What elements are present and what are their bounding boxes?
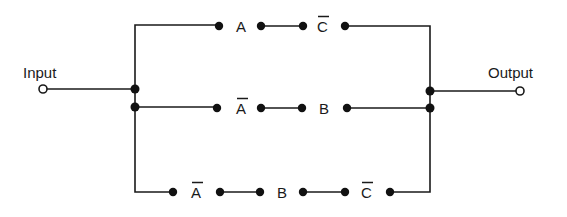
contact-dot [299,188,307,196]
contact-dot [169,188,177,196]
contact-dot [213,104,221,112]
branch-top: A C [215,17,349,36]
contact-dot [257,104,265,112]
left-bus-wire [135,25,218,192]
output-label: Output [488,64,534,81]
contact-dot [341,188,349,196]
contact-label-c-bar: C [361,184,372,201]
contact-dot [343,104,351,112]
contact-label-b: B [277,184,287,201]
contact-label-a-bar: A [191,184,201,201]
contact-dot [215,22,223,30]
contact-label-a-bar: A [236,100,246,117]
right-bus-wire [345,26,430,192]
contact-label-c-bar: C [317,18,328,35]
contact-dot [386,188,394,196]
contact-dot [298,104,306,112]
contact-dot [299,22,307,30]
left-junction-lower [131,103,140,112]
contact-dot [257,22,265,30]
right-junction-lower [426,104,435,113]
input-terminal [39,85,47,93]
branch-bottom: A B C [169,183,394,202]
contact-label-b: B [319,100,329,117]
contact-label-a: A [236,18,246,35]
input-label: Input [23,64,57,81]
contact-dot [341,22,349,30]
output-terminal [516,87,524,95]
branch-middle: A B [213,99,351,118]
left-junction-upper [131,85,140,94]
circuit-diagram: Input Output A C A B [0,0,567,217]
right-junction-upper [426,87,435,96]
left-bus [131,25,219,192]
input-terminal-group: Input [23,64,135,93]
contact-dot [256,188,264,196]
right-bus: Output [345,26,534,192]
contact-dot [216,188,224,196]
